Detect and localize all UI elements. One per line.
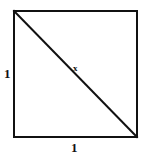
diagonal-line (14, 11, 137, 137)
left-side-length-label: 1 (4, 67, 11, 80)
figure-drawing (0, 0, 145, 161)
diagonal-length-label: x (73, 64, 78, 73)
bottom-side-length-label: 1 (71, 141, 78, 154)
geometry-figure: 1 1 x (0, 0, 145, 161)
